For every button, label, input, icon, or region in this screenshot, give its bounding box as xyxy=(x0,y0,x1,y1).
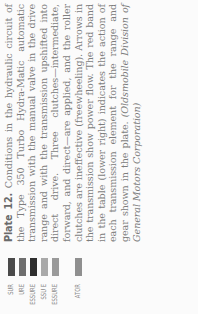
rotated-page: SUR URE ESSURE SSU E ESSURE ATOR Plate 1… xyxy=(0,0,198,314)
legend-label: ATOR xyxy=(73,284,84,307)
legend-item: ATOR xyxy=(73,254,84,314)
legend-label: ESSURE xyxy=(50,284,61,307)
legend-label: URE xyxy=(17,284,28,307)
caption-body: Conditions in the hydraulic circuit of t… xyxy=(3,4,130,242)
legend-swatch xyxy=(52,258,59,276)
plate-label: Plate 12. xyxy=(3,193,14,242)
legend-item: URE xyxy=(17,254,28,314)
legend-label: SUR xyxy=(6,284,17,307)
legend-swatch xyxy=(8,258,15,276)
legend-label: ESSURE xyxy=(28,284,39,307)
legend-item: SSU E xyxy=(39,254,50,314)
legend-item: ESSURE xyxy=(28,254,39,314)
legend-item: ESSURE xyxy=(50,254,61,314)
pressure-legend: SUR URE ESSURE SSU E ESSURE ATOR xyxy=(6,254,92,314)
legend-swatch xyxy=(30,258,37,276)
legend-item: SUR xyxy=(6,254,17,314)
legend-swatch xyxy=(19,258,26,276)
legend-swatch xyxy=(75,258,82,276)
plate-caption: Plate 12. Conditions in the hydraulic ci… xyxy=(3,4,142,242)
legend-swatch xyxy=(41,258,48,276)
legend-label: SSU E xyxy=(39,284,50,307)
